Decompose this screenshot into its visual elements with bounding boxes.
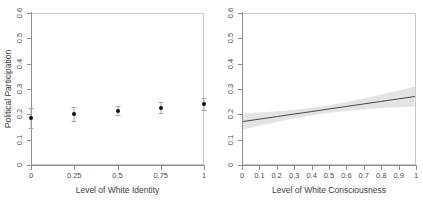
y-tick-label: 0.6: [16, 8, 24, 18]
error-bar-cap: [29, 108, 34, 109]
error-bar-cap: [72, 121, 77, 122]
error-bar-cap: [72, 107, 77, 108]
error-bar-cap: [202, 110, 207, 111]
x-tick-label: 1: [202, 172, 206, 180]
x-axis-title-left: Level of White Identity: [76, 186, 160, 195]
y-tick-label: 0.5: [16, 33, 24, 43]
x-axis-title-right: Level of White Consciousness: [272, 186, 386, 195]
x-tick-mark: [74, 166, 75, 170]
data-point-marker: [202, 102, 206, 106]
x-tick-label: 0.5: [112, 172, 122, 180]
error-bar-cap: [115, 115, 120, 116]
y-tick-label: 0.4: [227, 58, 235, 68]
x-tick-label: 0.4: [306, 172, 316, 180]
y-tick-mark: [238, 114, 242, 115]
confidence-band: [243, 87, 415, 130]
x-tick-mark: [161, 166, 162, 170]
plot-svg-right: [243, 14, 415, 164]
x-tick-mark: [346, 166, 347, 170]
x-tick-label: 0.5: [324, 172, 334, 180]
x-tick-mark: [294, 166, 295, 170]
data-point-marker: [29, 116, 33, 120]
y-tick-mark: [238, 38, 242, 39]
x-tick-mark: [259, 166, 260, 170]
y-tick-mark: [27, 140, 31, 141]
y-axis-title-left: Political Participation: [4, 50, 13, 128]
x-tick-label: 0.2: [272, 172, 282, 180]
x-tick-label: 0.7: [359, 172, 369, 180]
plot-svg-left: [32, 14, 203, 164]
x-tick-mark: [312, 166, 313, 170]
y-tick-mark: [238, 64, 242, 65]
y-tick-label: 0.1: [16, 134, 24, 144]
x-tick-label: 1: [414, 172, 418, 180]
y-tick-label: 0: [16, 163, 24, 167]
x-tick-mark: [31, 166, 32, 170]
x-tick-mark: [399, 166, 400, 170]
error-bar-cap: [29, 128, 34, 129]
x-tick-mark: [381, 166, 382, 170]
panel-left-white-identity: 00.250.50.75100.10.20.30.40.50.6 Level o…: [0, 0, 211, 201]
panel-right-white-consciousness: 00.10.20.30.40.50.60.70.80.9100.10.20.30…: [211, 0, 423, 201]
y-tick-label: 0: [227, 163, 235, 167]
data-point-marker: [159, 106, 163, 110]
y-tick-mark: [238, 165, 242, 166]
x-tick-label: 0.9: [393, 172, 403, 180]
x-tick-label: 0.8: [376, 172, 386, 180]
y-tick-label: 0.3: [16, 84, 24, 94]
fit-line: [243, 97, 415, 122]
y-tick-label: 0.5: [227, 33, 235, 43]
plot-area-left: [31, 13, 204, 165]
y-tick-mark: [238, 89, 242, 90]
y-tick-mark: [27, 64, 31, 65]
error-bar-cap: [115, 106, 120, 107]
y-tick-label: 0.6: [227, 8, 235, 18]
figure-two-panel-plot: 00.250.50.75100.10.20.30.40.50.6 Level o…: [0, 0, 423, 201]
error-bar-cap: [202, 98, 207, 99]
x-tick-label: 0.25: [67, 172, 82, 180]
x-tick-label: 0.75: [153, 172, 168, 180]
data-point-marker: [72, 112, 76, 116]
y-axis-line-right: [242, 12, 243, 166]
y-tick-label: 0.1: [227, 134, 235, 144]
y-tick-mark: [27, 13, 31, 14]
x-tick-mark: [277, 166, 278, 170]
x-tick-mark: [416, 166, 417, 170]
x-tick-label: 0.6: [341, 172, 351, 180]
plot-area-right: [242, 13, 416, 165]
data-point-marker: [116, 109, 120, 113]
y-tick-mark: [27, 165, 31, 166]
y-tick-mark: [27, 89, 31, 90]
x-tick-mark: [364, 166, 365, 170]
x-tick-mark: [329, 166, 330, 170]
y-tick-mark: [27, 38, 31, 39]
y-tick-label: 0.2: [16, 109, 24, 119]
x-tick-label: 0.3: [289, 172, 299, 180]
error-bar-cap: [158, 113, 163, 114]
y-tick-mark: [238, 13, 242, 14]
y-tick-label: 0.2: [227, 109, 235, 119]
y-tick-label: 0.4: [16, 58, 24, 68]
y-axis-line-left: [31, 12, 32, 166]
x-tick-mark: [204, 166, 205, 170]
x-tick-label: 0: [240, 172, 244, 180]
x-tick-label: 0: [29, 172, 33, 180]
y-tick-label: 0.3: [227, 84, 235, 94]
error-bar-cap: [158, 102, 163, 103]
y-tick-mark: [238, 140, 242, 141]
x-tick-mark: [118, 166, 119, 170]
x-tick-label: 0.1: [254, 172, 264, 180]
x-tick-mark: [242, 166, 243, 170]
